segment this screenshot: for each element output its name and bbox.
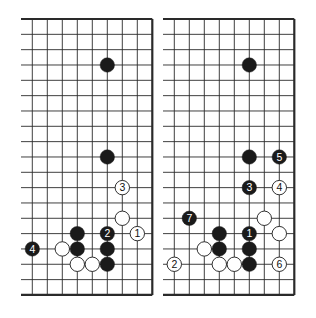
- move-number: 4: [29, 243, 35, 255]
- white-stone-6: 6: [272, 257, 286, 271]
- white-stone: [197, 242, 211, 256]
- go-board-right: 5347126: [158, 0, 316, 318]
- black-stone: [242, 150, 256, 164]
- black-stone: [242, 242, 256, 256]
- go-diagram-left: 3124: [0, 0, 158, 318]
- white-stone: [257, 211, 271, 225]
- black-stone: [100, 257, 114, 271]
- move-number: 5: [276, 151, 282, 163]
- black-stone: [242, 257, 256, 271]
- white-stone: [212, 257, 226, 271]
- move-number: 1: [246, 227, 252, 239]
- move-number: 3: [246, 181, 252, 193]
- black-stone-5: 5: [272, 150, 286, 164]
- white-stone-3: 3: [115, 180, 129, 194]
- move-number: 6: [276, 258, 282, 270]
- black-stone: [212, 242, 226, 256]
- black-stone-7: 7: [182, 211, 196, 225]
- move-number: 1: [134, 227, 140, 239]
- white-stone: [70, 257, 84, 271]
- white-stone: [55, 242, 69, 256]
- go-diagram-right: 5347126: [158, 0, 316, 318]
- move-number: 3: [119, 181, 125, 193]
- white-stone-1: 1: [130, 226, 144, 240]
- black-stone: [100, 150, 114, 164]
- black-stone: [212, 226, 226, 240]
- move-number: 7: [186, 212, 192, 224]
- black-stone: [70, 242, 84, 256]
- black-stone-1: 1: [242, 226, 256, 240]
- black-stone-2: 2: [100, 226, 114, 240]
- black-stone: [70, 226, 84, 240]
- black-stone-4: 4: [25, 242, 39, 256]
- move-number: 4: [276, 181, 282, 193]
- black-stone: [100, 242, 114, 256]
- white-stone-2: 2: [167, 257, 181, 271]
- black-stone: [242, 58, 256, 72]
- move-number: 2: [104, 227, 110, 239]
- white-stone: [272, 226, 286, 240]
- white-stone: [227, 257, 241, 271]
- white-stone: [85, 257, 99, 271]
- white-stone-4: 4: [272, 180, 286, 194]
- move-number: 2: [171, 258, 177, 270]
- black-stone: [100, 58, 114, 72]
- white-stone: [115, 211, 129, 225]
- go-board-left: 3124: [0, 0, 158, 318]
- grid-lines: [21, 19, 152, 295]
- black-stone-3: 3: [242, 180, 256, 194]
